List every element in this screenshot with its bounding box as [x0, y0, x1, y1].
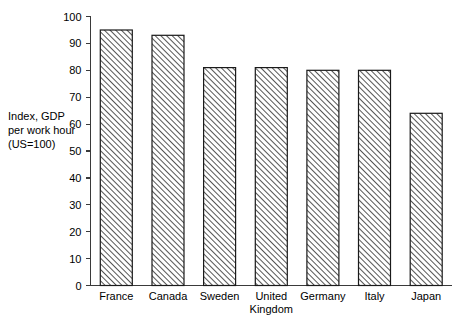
x-axis-category-label: United — [255, 290, 287, 302]
x-axis-category-label: Italy — [364, 290, 385, 302]
y-axis-tick-label: 80 — [69, 64, 81, 76]
y-axis-tick-label: 10 — [69, 253, 81, 265]
y-axis-tick-label: 20 — [69, 226, 81, 238]
x-axis-category-label: Germany — [300, 290, 346, 302]
y-axis-title-line: (US=100) — [8, 138, 55, 150]
y-axis-title: Index, GDPper work hour(US=100) — [8, 110, 76, 150]
y-axis-tick-label: 100 — [63, 11, 81, 23]
x-axis-category-label: France — [99, 290, 133, 302]
y-axis-tick-label: 30 — [69, 199, 81, 211]
x-axis-category-label: Sweden — [200, 290, 240, 302]
bar-germany — [307, 70, 339, 285]
bar-chart-figure: 0102030405060708090100 Index, GDPper wor… — [0, 0, 465, 316]
y-axis-title-line: per work hour — [8, 124, 76, 136]
y-axis-tick-label: 0 — [75, 280, 81, 292]
bar-canada — [152, 35, 184, 285]
y-axis-tick-label: 40 — [69, 172, 81, 184]
bar-sweden — [204, 68, 236, 286]
y-axis-title-line: Index, GDP — [8, 110, 65, 122]
x-axis-category-label: Kingdom — [250, 303, 293, 315]
bar-italy — [359, 70, 391, 285]
x-axis-category-label: Canada — [149, 290, 188, 302]
bars-series — [100, 30, 442, 286]
y-axis: 0102030405060708090100 — [63, 11, 90, 292]
y-axis-tick-label: 90 — [69, 37, 81, 49]
bar-france — [100, 30, 132, 286]
y-axis-tick-label: 50 — [69, 145, 81, 157]
bar-japan — [410, 113, 442, 285]
x-axis-category-labels: FranceCanadaSwedenUnitedKingdomGermanyIt… — [99, 290, 441, 315]
chart-canvas: 0102030405060708090100 Index, GDPper wor… — [0, 0, 465, 316]
x-axis-category-label: Japan — [411, 290, 441, 302]
y-axis-tick-label: 70 — [69, 91, 81, 103]
bar-united-kingdom — [255, 68, 287, 286]
